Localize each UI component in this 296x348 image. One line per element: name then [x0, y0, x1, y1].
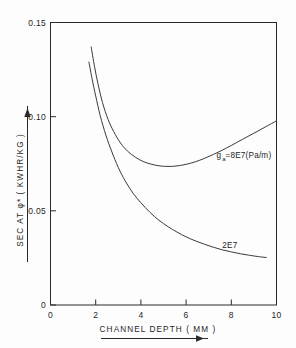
x-tick-label-4: 8	[229, 310, 234, 320]
x-axis-ticks	[51, 300, 277, 306]
chart-figure: 0.15 0.10 0.05 0 0 2 4 6 8 10 CHANNEL DE…	[0, 0, 296, 348]
x-tick-label-1: 2	[93, 310, 98, 320]
x-tick-label-5: 10	[271, 310, 281, 320]
y-tick-label-0: 0	[41, 300, 46, 310]
chart-canvas: 0.15 0.10 0.05 0 0 2 4 6 8 10 CHANNEL DE…	[0, 0, 296, 348]
upper-curve-annotation: g a =8E7(Pa/m)	[217, 151, 272, 162]
x-tick-label-3: 6	[184, 310, 189, 320]
plot-frame	[51, 23, 277, 306]
y-tick-label-1: 0.05	[28, 206, 46, 216]
y-tick-label-2: 0.10	[28, 112, 46, 122]
x-tick-label-0: 0	[48, 310, 53, 320]
y-axis-ticks	[51, 23, 57, 306]
x-axis-arrow-icon	[196, 335, 204, 342]
y-axis-title: SEC AT φ* ( KWHR/KG )	[16, 133, 25, 247]
lower-curve-label-text: 2E7	[222, 241, 237, 250]
y-tick-label-3: 0.15	[28, 18, 46, 28]
upper-curve-symbol: g	[217, 151, 222, 160]
curve-ga-8E7	[91, 47, 276, 166]
x-axis-title: CHANNEL DEPTH ( MM )	[100, 325, 217, 334]
upper-curve-label-text: =8E7(Pa/m)	[225, 151, 271, 160]
x-tick-label-2: 4	[138, 310, 143, 320]
